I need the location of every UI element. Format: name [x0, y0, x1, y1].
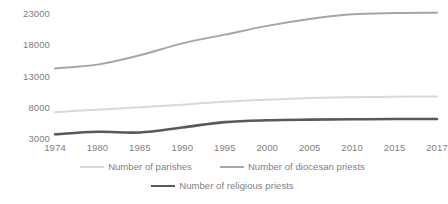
y-axis-tick-label: 23000 [0, 9, 50, 19]
y-axis: 30008000130001800023000 [0, 14, 50, 139]
x-axis-tick-label: 2010 [341, 142, 363, 153]
series-line [55, 97, 437, 113]
legend-item[interactable]: Number of diocesan priests [220, 161, 365, 172]
x-axis-tick-label: 1985 [129, 142, 151, 153]
plot-area [55, 14, 437, 139]
y-axis-tick-label: 3000 [0, 134, 50, 144]
legend-item[interactable]: Number of religious priests [151, 180, 293, 191]
legend-line-icon [80, 166, 104, 168]
series-line [55, 13, 437, 69]
y-axis-tick-label: 13000 [0, 72, 50, 82]
chart-legend: Number of parishesNumber of diocesan pri… [0, 160, 445, 204]
x-axis-tick-label: 2015 [384, 142, 406, 153]
y-axis-tick-label: 18000 [0, 40, 50, 50]
plot-svg [55, 14, 437, 139]
legend-item[interactable]: Number of parishes [80, 161, 192, 172]
legend-row-secondary: Number of religious priests [0, 180, 445, 191]
x-axis-tick-label: 2017 [426, 142, 448, 153]
x-axis-tick-label: 2005 [299, 142, 321, 153]
x-axis: 1974198019851990199520002005201020152017 [55, 142, 437, 155]
x-axis-tick-label: 1995 [214, 142, 236, 153]
x-axis-tick-label: 1980 [87, 142, 109, 153]
y-axis-tick-label: 8000 [0, 103, 50, 113]
legend-item-label: Number of diocesan priests [248, 161, 365, 172]
legend-item-label: Number of religious priests [179, 180, 293, 191]
legend-row-primary: Number of parishesNumber of diocesan pri… [0, 161, 445, 172]
series-line [55, 119, 437, 134]
legend-line-icon [220, 166, 244, 168]
x-axis-tick-label: 2000 [256, 142, 278, 153]
legend-line-icon [151, 185, 175, 187]
x-axis-tick-label: 1974 [44, 142, 66, 153]
x-axis-tick-label: 1990 [172, 142, 194, 153]
legend-item-label: Number of parishes [108, 161, 192, 172]
